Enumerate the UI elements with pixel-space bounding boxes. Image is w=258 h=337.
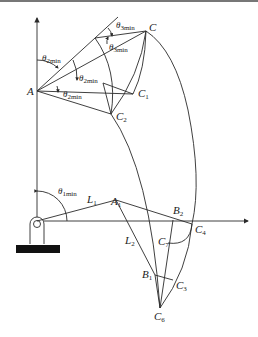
label-C7: C7 (158, 235, 169, 249)
label-C2: C2 (116, 110, 127, 124)
label-C4: C4 (195, 223, 206, 237)
upper-linkage (37, 17, 196, 308)
label-theta1min: θ1min (58, 186, 77, 198)
label-theta3min-b: θ3min (109, 42, 128, 54)
label-A: A (26, 85, 34, 97)
label-theta2min-b: θ2min (79, 73, 98, 85)
label-B1: B1 (142, 268, 153, 282)
label-B2: B2 (173, 204, 184, 218)
label-theta2min-a: θ2min (42, 53, 61, 65)
label-A1: A1 (110, 195, 122, 209)
label-theta3min-a: θ3min (116, 20, 135, 32)
label-L1: L1 (86, 193, 97, 207)
label-L2: L2 (124, 234, 135, 248)
linkage-diagram: A C C1 C2 A1 B2 C4 C7 B1 C3 C6 L1 L2 θ1m… (0, 0, 258, 337)
label-theta2min-c: θ2min (63, 89, 82, 101)
label-C3: C3 (176, 279, 187, 293)
lower-linkage (37, 200, 192, 308)
label-C6: C6 (154, 310, 165, 324)
label-C1: C1 (138, 87, 149, 101)
label-C: C (149, 21, 157, 33)
ground-pivot-icon (16, 217, 60, 253)
